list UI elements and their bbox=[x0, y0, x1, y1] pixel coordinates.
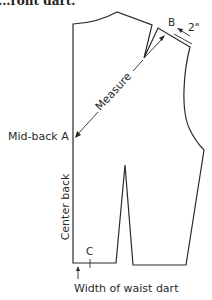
center-back-label: Center back bbox=[59, 173, 72, 240]
point-b-label: B bbox=[168, 16, 175, 28]
measure-label: Measure bbox=[93, 70, 135, 113]
point-c-label: C bbox=[86, 245, 93, 257]
arrowhead-b-icon bbox=[159, 35, 165, 41]
shoulder-measure-label: 2" bbox=[188, 21, 200, 33]
measure-line-lower bbox=[77, 112, 98, 135]
arrowhead-2in-icon bbox=[177, 28, 183, 33]
bodice-outline bbox=[73, 12, 204, 265]
arrowhead-waist-icon bbox=[76, 266, 80, 271]
bodice-pattern-diagram: ...ront dart. B 2" Measure Mid-back A Ce… bbox=[0, 0, 212, 300]
mid-back-a-label: Mid-back A bbox=[8, 130, 69, 143]
caption-fragment: ...ront dart. bbox=[0, 0, 76, 8]
waist-dart-width-label: Width of waist dart bbox=[74, 282, 179, 295]
measure-line-upper bbox=[133, 60, 143, 71]
